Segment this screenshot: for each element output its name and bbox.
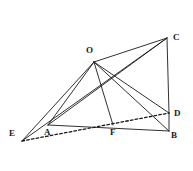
vertex-label-F: F [110, 128, 116, 137]
segment-O-A [48, 62, 94, 125]
vertex-label-D: D [174, 109, 181, 118]
segment-O-D [94, 62, 169, 113]
segments-group [22, 38, 169, 141]
geometry-figure: O C D B F A E [0, 0, 193, 171]
vertex-label-E: E [9, 129, 15, 138]
segment-C-E [22, 38, 167, 141]
vertex-label-A: A [44, 128, 51, 137]
segment-A-B [48, 125, 169, 131]
vertex-label-C: C [173, 33, 180, 42]
geometry-canvas [0, 0, 193, 171]
vertex-label-B: B [171, 131, 177, 140]
segment-O-F [94, 62, 113, 125]
segment-O-C [94, 38, 167, 62]
segment-C-D [167, 38, 169, 113]
vertex-label-O: O [86, 46, 93, 55]
